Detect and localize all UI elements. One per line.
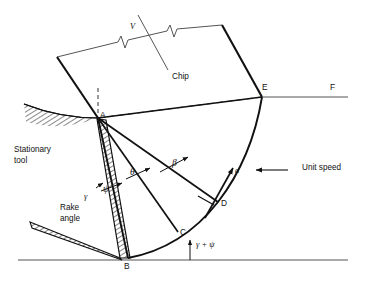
rake-angle-label-line1: Rake (60, 203, 79, 213)
diagram-canvas (0, 0, 365, 282)
tool-flank-hatched (30, 222, 122, 260)
stationary-tool-hatched-boundary (24, 104, 98, 126)
angle-label-gamma-plus-psi: γ + ψ (196, 240, 214, 250)
chip-velocity-line (138, 15, 168, 70)
angle-label-theta: θ (130, 166, 135, 177)
stationary-tool-label-line1: Stationary (14, 145, 51, 155)
velocity-vector-a (205, 168, 233, 218)
vector-label-a: a (235, 165, 239, 175)
gamma-arc (96, 183, 103, 188)
chip-label: Chip (172, 72, 189, 82)
point-label-B: B (124, 262, 130, 272)
cutting-mechanics-diagram: Chip Stationary tool Rake angle Unit spe… (0, 0, 365, 282)
point-label-D: D (221, 199, 227, 209)
angle-label-gamma: γ (84, 192, 87, 202)
rake-angle-label-line2: angle (60, 214, 80, 224)
shear-boundary-arc (128, 97, 262, 258)
angle-label-psi: ψ (103, 183, 109, 194)
point-label-E: E (262, 83, 268, 93)
angle-label-beta: β (172, 157, 177, 168)
chip-outline (57, 25, 262, 118)
point-label-A: A (100, 111, 106, 121)
stationary-tool-label-line2: tool (14, 156, 27, 166)
point-label-C: C (180, 228, 186, 238)
chip-velocity-label: V (130, 22, 135, 32)
fan-line-A-E (98, 97, 262, 118)
point-label-F: F (330, 83, 335, 93)
unit-speed-label: Unit speed (302, 163, 341, 173)
